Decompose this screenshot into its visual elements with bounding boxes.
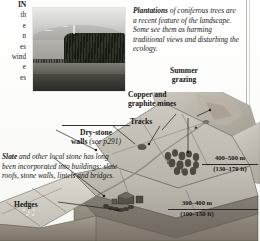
label-line: walls (see p291) [60,137,132,146]
book-page: IN th e n es wind e es [0,0,260,241]
fragment-line: IN [0,0,26,10]
photo-midground [33,63,125,75]
fragment-line: n [0,31,26,41]
label-line: Copper and [128,90,194,99]
caption-plantations: Plantations of coniferous trees are a re… [133,6,240,54]
elevation-imperial-upper: (130–170 ft) [202,165,258,173]
fragment-line: e [0,62,26,72]
fragment-line: es [0,73,26,83]
label-line: Dry-stone [60,128,132,137]
caption-runin: Plantations [133,6,168,15]
label-hedges: Hedges [14,200,58,209]
mine-spoil-heap [138,144,147,150]
label-summer-grazing: Summer grazing [160,66,208,84]
label-line: graphite mines [128,99,194,108]
caption-body: and other local stone has long been inco… [2,152,117,180]
photo-foreground [33,74,125,91]
elevation-metric: 300–400 m [168,199,226,207]
elevation-metric: 400–500 m [202,154,258,162]
label-line: Summer [160,66,208,75]
label-line-bold: walls [71,137,89,146]
caption-runin: Slate [2,152,17,161]
fragment-line: e [0,21,26,31]
label-hairline [62,125,130,126]
fragment-line: wind [0,52,26,62]
label-tracks: Tracks [130,117,172,126]
body-text-column-fragment: IN th e n es wind e es [0,0,26,83]
hillside-conifer-plantation-photo [33,8,125,91]
fragment-line: es [0,42,26,52]
label-line: grazing [160,75,208,84]
label-dry-stone-walls: Dry-stone walls (see p291) [60,128,132,146]
label-cross-reference: (see p291) [89,137,121,146]
elevation-label-lower: 300–400 m [168,199,226,207]
label-copper-graphite-mines: Copper and graphite mines [128,90,194,108]
caption-slate: Slate and other local stone has long bee… [2,152,124,181]
fragment-line: th [0,10,26,20]
elevation-imperial-lower: (100–150 ft) [168,210,226,218]
photo-highlight [44,30,53,31]
elevation-label-upper: 400–500 m [202,154,258,162]
